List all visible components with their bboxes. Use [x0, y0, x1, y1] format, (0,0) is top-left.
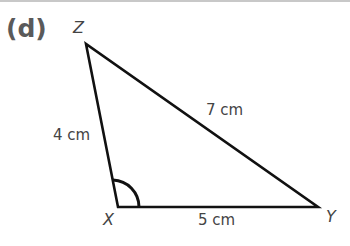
side-zy-length: 7 cm: [206, 101, 243, 119]
triangle-diagram: [0, 0, 350, 246]
vertex-y-label: Y: [326, 207, 336, 226]
vertex-z-label: Z: [73, 18, 84, 37]
vertex-x-label: X: [103, 210, 114, 229]
side-xy-length: 5 cm: [198, 211, 235, 229]
side-xz-length: 4 cm: [53, 126, 90, 144]
